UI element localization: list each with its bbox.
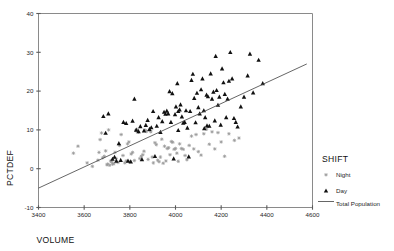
triangle-marker: [175, 81, 179, 85]
triangle-marker: [235, 124, 239, 128]
triangle-marker: [114, 159, 118, 163]
asterisk-marker: [175, 151, 179, 155]
asterisk-marker: [199, 153, 203, 157]
triangle-marker: [130, 119, 134, 123]
triangle-marker: [169, 120, 173, 124]
asterisk-marker: [216, 131, 220, 135]
asterisk-marker: [208, 143, 212, 147]
triangle-marker: [210, 96, 214, 100]
triangle-marker: [189, 78, 193, 82]
legend-item-day[interactable]: Day: [324, 187, 348, 194]
x-tick-label: 3600: [77, 211, 91, 218]
asterisk-marker: [197, 150, 201, 154]
asterisk-marker: [167, 146, 171, 150]
asterisk-marker: [127, 140, 131, 144]
triangle-marker: [245, 73, 249, 77]
asterisk-marker: [98, 138, 102, 142]
triangle-marker: [203, 115, 207, 119]
asterisk-marker: [178, 142, 182, 146]
asterisk-marker: [176, 160, 180, 164]
asterisk-marker: [174, 147, 178, 151]
legend: SHIFTNightDayTotal Population: [318, 154, 381, 207]
asterisk-marker: [227, 132, 231, 136]
triangle-marker: [176, 128, 180, 132]
legend-item-night[interactable]: Night: [324, 171, 350, 178]
triangle-marker: [185, 126, 189, 130]
asterisk-marker: [100, 131, 104, 135]
x-tick-label: 4400: [260, 211, 274, 218]
asterisk-marker: [152, 161, 156, 165]
triangle-marker: [106, 111, 110, 115]
axis-frame-path: [39, 14, 313, 208]
asterisk-marker: [183, 154, 187, 158]
triangle-marker: [195, 91, 199, 95]
asterisk-marker: [187, 144, 191, 148]
scatter-plot-figure: -100102030403400360038004000420044004600…: [0, 0, 394, 251]
triangle-marker: [117, 141, 121, 145]
triangle-marker: [196, 105, 200, 109]
triangle-marker: [193, 120, 197, 124]
triangle-marker: [155, 124, 159, 128]
y-axis-title: PCTDEF: [5, 150, 15, 186]
triangle-marker: [251, 90, 255, 94]
asterisk-marker: [161, 162, 165, 166]
triangle-marker: [200, 76, 204, 80]
triangle-marker: [242, 95, 246, 99]
triangle-marker: [138, 124, 142, 128]
triangle-marker: [184, 108, 188, 112]
x-tick-label: 4000: [169, 211, 183, 218]
asterisk-marker: [223, 155, 227, 159]
legend-item-total-population[interactable]: Total Population: [318, 200, 381, 207]
asterisk-marker: [133, 159, 137, 163]
asterisk-marker: [159, 155, 163, 159]
triangle-marker: [214, 88, 218, 92]
triangle-marker: [187, 154, 191, 158]
asterisk-marker: [131, 151, 135, 155]
triangle-marker: [151, 109, 155, 113]
triangle-marker: [224, 115, 228, 119]
triangle-marker: [220, 66, 224, 70]
asterisk-marker: [157, 160, 161, 164]
triangle-marker: [199, 87, 203, 91]
asterisk-marker: [163, 144, 167, 148]
legend-item-label: Night: [336, 171, 351, 178]
triangle-marker: [174, 104, 178, 108]
triangle-marker: [223, 92, 227, 96]
triangle-marker: [191, 72, 195, 76]
x-tick-label: 4200: [214, 211, 228, 218]
triangle-marker: [188, 109, 192, 113]
asterisk-marker: [155, 143, 159, 147]
triangle-marker: [239, 104, 243, 108]
x-tick-label: 3400: [32, 211, 46, 218]
triangle-marker: [232, 116, 236, 120]
triangle-marker: [112, 155, 116, 159]
y-tick-label: 30: [27, 49, 34, 56]
asterisk-marker: [171, 141, 175, 145]
triangle-marker: [167, 89, 171, 93]
legend-item-label: Total Population: [336, 200, 381, 207]
triangle-marker: [101, 114, 105, 118]
triangle-marker: [219, 122, 223, 126]
asterisk-marker: [97, 151, 101, 155]
legend-title: SHIFT: [322, 154, 349, 164]
triangle-marker: [227, 79, 231, 83]
asterisk-marker: [91, 165, 95, 169]
triangle-marker: [132, 96, 136, 100]
triangle-marker: [144, 123, 148, 127]
triangle-marker: [103, 131, 107, 135]
triangle-marker: [221, 80, 225, 84]
y-tick-label: -10: [25, 204, 35, 211]
asterisk-marker: [190, 134, 194, 138]
y-tick-label: 20: [27, 87, 34, 94]
triangle-marker: [119, 158, 123, 162]
asterisk-marker: [219, 140, 223, 144]
triangle-marker: [234, 120, 238, 124]
triangle-marker: [160, 119, 164, 123]
triangle-marker: [324, 188, 328, 192]
series-day: [101, 50, 265, 164]
asterisk-marker: [76, 144, 80, 148]
asterisk-marker: [85, 161, 89, 165]
triangle-marker: [228, 50, 232, 54]
triangle-marker: [213, 118, 217, 122]
asterisk-marker: [233, 139, 237, 143]
